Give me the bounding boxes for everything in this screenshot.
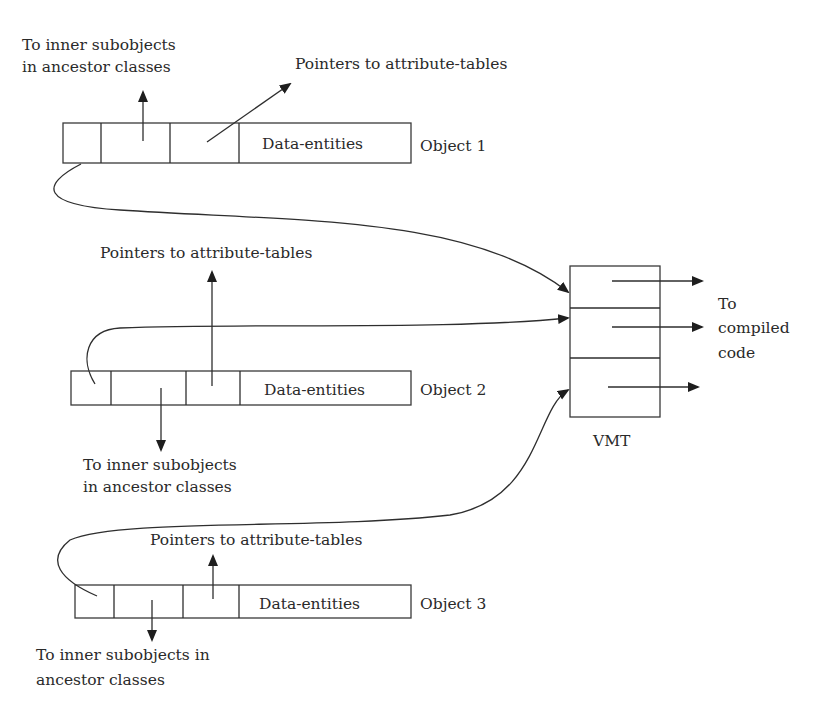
attribute-tables-label: Pointers to attribute-tables	[295, 55, 507, 73]
vmt-box	[570, 266, 660, 417]
data-entities-label: Data-entities	[259, 595, 360, 613]
object-3-record	[75, 585, 411, 618]
compiled-code-label-3: code	[718, 344, 755, 362]
vmt-pointer-arrow-1	[54, 164, 568, 292]
inner-subobjects-label-2: in ancestor classes	[22, 58, 171, 76]
vmt-label: VMT	[592, 432, 631, 450]
inner-subobjects-label: To inner subobjects	[22, 36, 176, 54]
inner-subobjects-label-2: ancestor classes	[36, 671, 165, 689]
inner-subobjects-label: To inner subobjects	[83, 456, 237, 474]
data-entities-label: Data-entities	[262, 135, 363, 153]
object-1-label: Object 1	[420, 137, 486, 155]
vmt-table: To compiled code VMT	[570, 266, 790, 450]
attribute-tables-label: Pointers to attribute-tables	[100, 244, 312, 262]
data-entities-label: Data-entities	[264, 381, 365, 399]
vmt-diagram: Data-entities Object 1 To inner subobjec…	[0, 0, 826, 722]
object-3: Data-entities Object 3 Pointers to attri…	[36, 531, 486, 689]
attribute-tables-label: Pointers to attribute-tables	[150, 531, 362, 549]
object-3-label: Object 3	[420, 595, 486, 613]
object-2: Data-entities Object 2 Pointers to attri…	[71, 244, 486, 496]
object-1: Data-entities Object 1 To inner subobjec…	[22, 36, 507, 163]
compiled-code-label-1: To	[718, 295, 736, 313]
inner-subobjects-label-2: in ancestor classes	[83, 478, 232, 496]
object-2-label: Object 2	[420, 381, 486, 399]
compiled-code-label-2: compiled	[718, 319, 790, 337]
inner-subobjects-label: To inner subobjects in	[36, 646, 210, 664]
